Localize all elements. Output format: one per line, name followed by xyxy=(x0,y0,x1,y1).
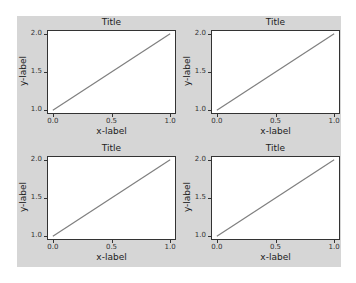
y-tick-label: 2.0 xyxy=(22,29,42,37)
plot-area xyxy=(47,30,176,114)
x-axis-label: x-label xyxy=(47,126,176,136)
y-tick-mark xyxy=(44,110,47,111)
x-tick-label: 1.0 xyxy=(160,117,180,125)
x-axis-label: x-label xyxy=(211,126,340,136)
y-tick-mark xyxy=(208,160,211,161)
y-tick-mark xyxy=(44,72,47,73)
line-series xyxy=(48,31,177,115)
x-tick-label: 0.5 xyxy=(266,243,286,251)
x-axis-label: x-label xyxy=(47,252,176,262)
x-tick-label: 0.0 xyxy=(43,243,63,251)
subplot-title: Title xyxy=(47,17,176,27)
y-tick-label: 1.0 xyxy=(186,105,206,113)
y-tick-mark xyxy=(208,72,211,73)
line-series xyxy=(212,157,341,241)
plot-area xyxy=(211,30,340,114)
plot-area xyxy=(47,156,176,240)
x-tick-label: 0.0 xyxy=(207,243,227,251)
y-tick-mark xyxy=(44,198,47,199)
x-tick-label: 0.0 xyxy=(43,117,63,125)
x-tick-label: 0.5 xyxy=(102,117,122,125)
subplot-title: Title xyxy=(211,17,340,27)
subplot-title: Title xyxy=(211,143,340,153)
line-series xyxy=(48,157,177,241)
y-tick-mark xyxy=(208,198,211,199)
x-tick-label: 1.0 xyxy=(160,243,180,251)
y-axis-label: y-label xyxy=(182,41,192,101)
y-tick-label: 1.0 xyxy=(22,231,42,239)
y-tick-label: 1.0 xyxy=(22,105,42,113)
y-tick-label: 2.0 xyxy=(186,29,206,37)
x-tick-label: 0.5 xyxy=(102,243,122,251)
y-tick-mark xyxy=(44,34,47,35)
x-tick-label: 0.5 xyxy=(266,117,286,125)
y-tick-label: 2.0 xyxy=(186,155,206,163)
y-tick-mark xyxy=(44,236,47,237)
y-axis-label: y-label xyxy=(18,41,28,101)
x-tick-label: 0.0 xyxy=(207,117,227,125)
subplot-title: Title xyxy=(47,143,176,153)
x-axis-label: x-label xyxy=(211,252,340,262)
y-tick-mark xyxy=(208,236,211,237)
y-tick-mark xyxy=(208,110,211,111)
y-axis-label: y-label xyxy=(18,167,28,227)
y-tick-label: 2.0 xyxy=(22,155,42,163)
y-tick-mark xyxy=(208,34,211,35)
plot-area xyxy=(211,156,340,240)
y-tick-mark xyxy=(44,160,47,161)
y-tick-label: 1.0 xyxy=(186,231,206,239)
x-tick-label: 1.0 xyxy=(324,243,344,251)
line-series xyxy=(212,31,341,115)
x-tick-label: 1.0 xyxy=(324,117,344,125)
y-axis-label: y-label xyxy=(182,167,192,227)
